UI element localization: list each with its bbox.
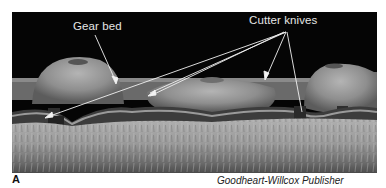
gear-bed-label: Gear bed — [73, 20, 122, 32]
image-credit: Goodheart-Willcox Publisher — [217, 175, 344, 186]
photo-illustration — [12, 12, 377, 173]
panel-letter: A — [12, 173, 20, 185]
reel-mower-photo: Gear bed Cutter knives — [12, 12, 377, 173]
cutter-knives-label: Cutter knives — [249, 14, 317, 26]
